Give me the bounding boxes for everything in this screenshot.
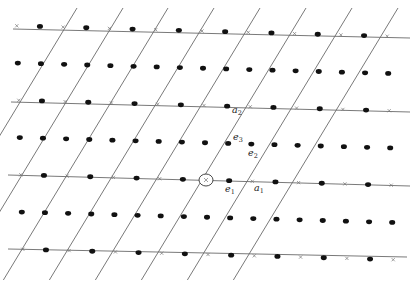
lattice-dot [385,71,391,76]
lattice-dot [362,70,368,75]
lattice-dot [41,173,47,178]
intersection-cross [112,176,115,179]
slanted-line [49,8,214,280]
lattice-dot [202,140,208,145]
horizontal-lattice-lines [8,29,410,257]
lattice-dot [17,135,23,140]
label-e3: e3 [233,131,243,144]
lattice-dot [130,27,136,32]
lattice-dot [270,105,276,110]
intersection-cross [62,26,65,29]
lattice-dot [222,29,228,34]
lattice-dot [111,212,117,217]
lattice-dot [343,219,349,224]
lattice-dot [295,143,301,148]
label-e1: e1 [225,183,235,196]
lattice-dot [177,65,183,70]
lattice-dot [136,250,142,255]
lattice-dot [319,181,325,186]
intersection-cross [293,32,296,35]
lattice-dot [367,257,373,262]
lattice-dot [181,214,187,219]
lattice-dot [339,70,345,75]
lattice-dot [321,255,327,260]
lattice-dot [318,144,324,149]
lattice-dot [156,139,162,144]
lattice-dot [180,177,186,182]
lattice-dot [320,218,326,223]
lattice-dot [366,219,372,224]
lattice-dot [38,61,44,66]
lattice-dot [134,176,140,181]
lattice-dot [389,220,395,225]
intersection-cross [15,24,18,27]
lattice-dot [88,212,94,217]
lattice-dot [135,213,141,218]
lattice-dot [63,136,69,141]
lattice-dot [271,142,277,147]
lattice-dot [387,146,393,151]
lattice-dot [224,104,230,109]
lattice-dot [200,66,206,71]
horizontal-line [13,29,410,38]
lattice-dot [317,106,323,111]
origin-marker [199,174,213,186]
lattice-dot [85,100,91,105]
lattice-dot [272,180,278,185]
lattice-dot [107,63,113,68]
lattice-dot [274,254,280,259]
lattice-dot [61,62,67,67]
lattice-dot [132,101,138,106]
lattice-dot [268,31,274,36]
lattice-dot [228,253,234,258]
lattice-dot [269,68,275,73]
label-e2: e2 [248,147,258,160]
lattice-dot [297,217,303,222]
slanted-line [95,8,260,280]
intersection-cross [392,258,395,261]
lattice-dot [83,25,89,30]
lattice-dot [15,61,21,66]
lattice-dot [363,108,369,113]
lattice-dot [179,140,185,145]
lattice-dot [89,249,95,254]
lattice-dot [178,102,184,107]
lattice-dot [246,67,252,72]
lattice-dot [316,69,322,74]
lattice-dot [364,145,370,150]
lattice-dot [227,216,233,221]
lattice-dot [225,141,231,146]
intersection-cross [345,257,348,260]
lattice-dot [131,64,137,69]
lattice-dot [37,24,43,29]
lattice-dot [361,33,367,38]
label-a1: a1 [254,182,264,195]
lattice-dot [65,211,71,216]
slanted-lattice-lines [0,8,398,280]
lattice-dot [39,99,45,104]
slanted-line [0,8,123,280]
lattice-dot [158,214,164,219]
horizontal-line [11,102,410,112]
lattice-diagram: a2 e3 e2 e1 a1 [0,0,420,285]
half-lattice-dots [15,24,395,261]
slanted-line [187,8,352,280]
lattice-dot [341,144,347,149]
intersection-cross [200,29,203,32]
label-a2: a2 [232,104,242,117]
lattice-dot [154,65,160,70]
intersection-cross [253,254,256,257]
lattice-dot [43,248,49,253]
lattice-dot [176,28,182,33]
lattice-dot [84,63,90,68]
lattice-dot [109,138,115,143]
lattice-dot [86,137,92,142]
slanted-line [141,8,306,280]
lattice-dot [42,210,48,215]
lattice-dot [365,182,371,187]
lattice-dot [273,217,279,222]
intersection-cross [247,31,250,34]
intersection-cross [299,256,302,259]
lattice-dot [248,142,254,147]
lattice-dot [204,215,210,220]
